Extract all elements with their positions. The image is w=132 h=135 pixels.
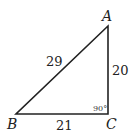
side-label-bc: 21 [56,118,73,133]
side-label-ac: 20 [112,63,129,78]
triangle-abc [16,26,108,114]
vertex-label-b: B [6,116,17,132]
side-label-ab: 29 [46,54,63,69]
triangle-diagram: A B C 29 20 21 90° [0,0,132,135]
right-angle-label: 90° [93,104,107,113]
vertex-label-a: A [100,8,112,24]
vertex-label-c: C [106,116,117,132]
